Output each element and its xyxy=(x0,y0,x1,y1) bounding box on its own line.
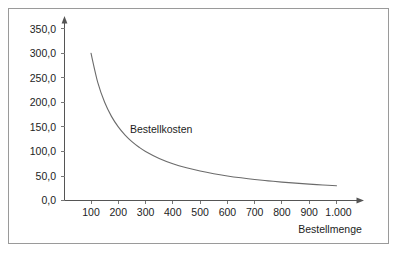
y-tick-label-200: 200,0 xyxy=(30,96,56,108)
x-tick-label-900: 900 xyxy=(300,206,318,218)
x-axis-arrow-icon xyxy=(357,198,365,204)
series-annotation-bestellkosten: Bestellkosten xyxy=(130,123,193,135)
x-axis-title: Bestellmenge xyxy=(298,223,362,235)
y-tick-label-150: 150,0 xyxy=(30,121,56,133)
x-tick-label-200: 200 xyxy=(110,206,128,218)
x-tick-label-100: 100 xyxy=(82,206,100,218)
x-axis-ticks xyxy=(91,201,337,205)
y-tick-label-50: 50,0 xyxy=(36,170,57,182)
y-tick-label-250: 250,0 xyxy=(30,72,56,84)
x-tick-label-1000: 1.000 xyxy=(325,206,351,218)
y-tick-label-350: 350,0 xyxy=(30,23,56,35)
x-tick-label-400: 400 xyxy=(164,206,182,218)
chart-figure: 0,0 50,0 100,0 150,0 200,0 250,0 300,0 3… xyxy=(0,0,399,254)
x-tick-label-600: 600 xyxy=(219,206,237,218)
x-tick-label-700: 700 xyxy=(246,206,264,218)
y-tick-label-300: 300,0 xyxy=(30,47,56,59)
y-axis-ticks xyxy=(61,29,65,201)
y-axis-arrow-icon xyxy=(62,16,68,24)
y-tick-label-0: 0,0 xyxy=(41,194,56,206)
bestellkosten-curve xyxy=(91,53,337,186)
y-tick-label-100: 100,0 xyxy=(30,145,56,157)
x-tick-label-500: 500 xyxy=(191,206,209,218)
x-tick-label-300: 300 xyxy=(137,206,155,218)
x-tick-label-800: 800 xyxy=(273,206,291,218)
chart-plot-area: 0,0 50,0 100,0 150,0 200,0 250,0 300,0 3… xyxy=(0,0,399,254)
